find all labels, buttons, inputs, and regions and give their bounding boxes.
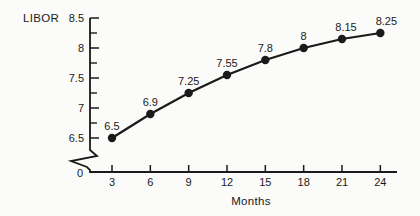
- data-point: [376, 29, 384, 37]
- data-point-label: 6.5: [104, 120, 119, 132]
- data-point-label: 7.55: [216, 57, 237, 69]
- x-axis-title: Months: [231, 195, 271, 207]
- data-point: [338, 35, 346, 43]
- y-tick-label: 7.5: [69, 72, 84, 84]
- y-tick-label: 8.5: [69, 12, 84, 24]
- y-tick-label: 8: [78, 42, 84, 54]
- libor-series-line: [112, 33, 380, 138]
- x-tick-label: 9: [186, 176, 192, 188]
- data-point: [299, 44, 307, 52]
- data-point-label: 8.15: [335, 21, 356, 33]
- line-chart-plot: 6.577.588.5036912151821246.56.97.257.557…: [0, 0, 420, 216]
- data-point-label: 6.9: [143, 96, 158, 108]
- x-tick-label: 6: [147, 176, 153, 188]
- data-point-label: 8.25: [376, 15, 397, 27]
- y-tick-label: 7: [78, 102, 84, 114]
- x-tick-label: 12: [221, 176, 233, 188]
- x-tick-label: 15: [259, 176, 271, 188]
- data-point: [108, 134, 116, 142]
- data-point-label: 7.8: [258, 42, 273, 54]
- data-point: [223, 71, 231, 79]
- x-tick-label: 24: [374, 176, 386, 188]
- x-tick-label: 21: [336, 176, 348, 188]
- libor-chart-figure: LIBOR 6.577.588.5036912151821246.56.97.2…: [0, 0, 420, 216]
- y-origin-label: 0: [77, 167, 83, 179]
- data-point: [184, 89, 192, 97]
- x-tick-label: 18: [298, 176, 310, 188]
- y-tick-label: 6.5: [69, 132, 84, 144]
- data-point: [261, 56, 269, 64]
- data-point-label: 8: [301, 30, 307, 42]
- x-tick-label: 3: [109, 176, 115, 188]
- data-point: [146, 110, 154, 118]
- axes-with-break: [71, 18, 397, 172]
- data-point-label: 7.25: [178, 75, 199, 87]
